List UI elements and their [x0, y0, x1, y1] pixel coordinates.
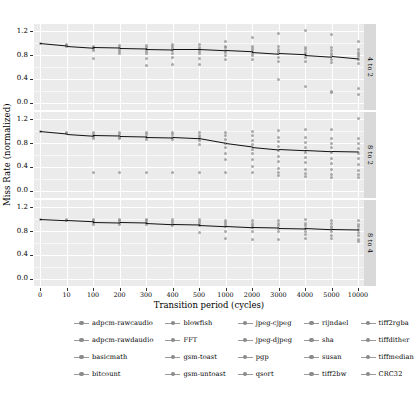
legend-key-dot	[366, 321, 370, 325]
y-axis-tick-mark	[30, 31, 33, 32]
data-point	[304, 136, 307, 139]
data-point	[198, 231, 201, 234]
legend-item[interactable]: adpcm-rawdaudio	[74, 333, 153, 347]
legend-key-icon	[361, 336, 376, 345]
gridline-vertical	[252, 200, 253, 286]
data-point	[357, 234, 360, 237]
legend-item[interactable]: basicmath	[74, 350, 153, 364]
legend-key-icon	[238, 370, 253, 379]
legend-item[interactable]: FFT	[165, 333, 225, 347]
y-axis-tick-label: 0.0	[0, 275, 28, 282]
y-axis-tick-label: 0.8	[0, 52, 28, 59]
gridline-vertical	[40, 24, 41, 110]
facet-strip: 8 to 2	[364, 112, 376, 198]
data-point	[224, 230, 227, 233]
data-point	[304, 156, 307, 159]
data-point	[304, 218, 307, 221]
gridline-vertical	[146, 112, 147, 198]
legend-item-label: jpeg-djpeg	[256, 336, 292, 344]
legend-item[interactable]: jpeg-djpeg	[238, 333, 292, 347]
trend-line-segment	[252, 227, 279, 229]
data-point	[251, 54, 254, 57]
legend-item[interactable]: tiffdither	[361, 333, 414, 347]
legend-key-icon	[304, 319, 319, 328]
legend-item[interactable]: rijndael	[304, 316, 349, 330]
trend-line-segment	[199, 225, 226, 227]
y-axis-label: Miss Rate (normalized)	[0, 60, 14, 250]
plot-area: Miss Rate (normalized) 4 to 28 to 28 to …	[0, 0, 418, 310]
data-point	[330, 91, 333, 94]
trend-line-segment	[305, 228, 332, 230]
legend-item[interactable]: CRC32	[361, 367, 414, 381]
legend-item-label: jpeg-cjpeg	[256, 319, 292, 327]
gridline-vertical	[173, 200, 174, 286]
legend-item[interactable]: gsm-toast	[165, 350, 225, 364]
data-point	[304, 60, 307, 63]
data-point	[304, 29, 307, 32]
data-point	[357, 40, 360, 43]
x-axis-label: Transition period (cycles)	[0, 300, 418, 310]
legend-item-label: tiffmedian	[379, 353, 414, 361]
gridline-vertical	[67, 112, 68, 198]
legend-item-label: rijndael	[322, 319, 349, 327]
data-point	[224, 131, 227, 134]
data-point	[330, 33, 333, 36]
y-axis-tick-label: 0.0	[0, 187, 28, 194]
legend-key-dot	[243, 355, 247, 359]
data-point	[277, 167, 280, 170]
data-point	[304, 146, 307, 149]
x-axis-tick-label: 100	[87, 292, 99, 299]
trend-line-segment	[331, 151, 358, 153]
data-point	[357, 137, 360, 140]
legend-item[interactable]: jpeg-cjpeg	[238, 316, 292, 330]
facet-strip: 8 to 4	[364, 200, 376, 286]
legend-item[interactable]: bitcount	[74, 367, 153, 381]
data-point	[330, 58, 333, 61]
y-axis-tick-mark	[30, 119, 33, 120]
y-axis-tick-label: 0.8	[0, 140, 28, 147]
data-point	[304, 85, 307, 88]
legend-key-icon	[165, 353, 180, 362]
data-point	[224, 58, 227, 61]
data-point	[357, 157, 360, 160]
legend-key-dot	[309, 338, 313, 342]
legend-item[interactable]: adpcm-rawcaudio	[74, 316, 153, 330]
legend-item-label: susan	[322, 353, 342, 361]
legend-item[interactable]: gsm-untoast	[165, 367, 225, 381]
legend-key-dot	[171, 372, 175, 376]
legend-key-icon	[74, 353, 89, 362]
legend-key-icon	[238, 336, 253, 345]
y-axis-tick-label: 0.4	[0, 75, 28, 82]
legend-item[interactable]: tiff2rgba	[361, 316, 414, 330]
gridline-vertical	[358, 112, 359, 198]
trend-line-segment	[146, 223, 173, 225]
data-point	[357, 147, 360, 150]
data-point	[251, 152, 254, 155]
data-point	[277, 230, 280, 233]
legend-key-dot	[171, 338, 175, 342]
legend-item[interactable]: blowfish	[165, 316, 225, 330]
trend-line-segment	[172, 224, 199, 226]
legend-item[interactable]: tiffmedian	[361, 350, 414, 364]
legend-item-label: bitcount	[92, 370, 121, 378]
data-point	[330, 234, 333, 237]
legend-item[interactable]: qsort	[238, 367, 292, 381]
legend-key-dot	[366, 338, 370, 342]
legend-item[interactable]: susan	[304, 350, 349, 364]
data-point	[251, 143, 254, 146]
trend-line-segment	[66, 220, 93, 222]
data-point	[198, 63, 201, 66]
y-axis-tick-mark	[30, 55, 33, 56]
gridline-vertical	[199, 200, 200, 286]
legend-item-label: FFT	[183, 336, 197, 344]
legend-item[interactable]: pgp	[238, 350, 292, 364]
data-point	[357, 62, 360, 65]
trend-line-segment	[93, 47, 120, 49]
data-point	[251, 130, 254, 133]
y-axis-tick-mark	[30, 167, 33, 168]
gridline-vertical	[40, 200, 41, 286]
legend-item[interactable]: sha	[304, 333, 349, 347]
legend-key-icon	[238, 353, 253, 362]
legend-item-label: adpcm-rawcaudio	[92, 319, 153, 327]
legend-item[interactable]: tiff2bw	[304, 367, 349, 381]
